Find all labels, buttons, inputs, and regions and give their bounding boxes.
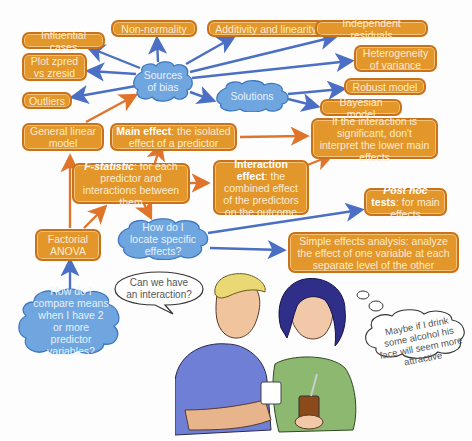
box-independent-residuals-label: Independent residuals (321, 17, 422, 41)
box-interaction-effect: Interaction effect: the combined effect … (213, 160, 309, 215)
cloud-compare-means: How do I compare means when I have 2 or … (18, 288, 124, 354)
box-main-effect: Main effect: the isolated effect of a pr… (110, 123, 237, 151)
box-influential-cases: Influential cases (22, 32, 105, 49)
cartoon-couple-illustration (175, 270, 365, 441)
box-f-statistic-text: F-statistic: for each predictor and inte… (78, 160, 184, 208)
box-independent-residuals: Independent residuals (315, 20, 428, 37)
box-simple-effects-label: Simple effects analysis: analyze the eff… (294, 235, 453, 271)
box-simple-effects: Simple effects analysis: analyze the eff… (288, 232, 459, 273)
box-f-statistic: F-statistic: for each predictor and inte… (72, 163, 190, 204)
box-general-linear-model: General linear model (22, 123, 104, 151)
main-effect-term: Main effect (116, 125, 171, 137)
cloud-locate-effects-label: How do I locate specific effects? (128, 221, 198, 257)
box-if-interaction-significant: If the interaction is significant, don't… (311, 118, 438, 159)
box-factorial-anova-label: Factorial ANOVA (41, 233, 95, 257)
cloud-solutions: Solutions (214, 80, 290, 112)
post-hoc-tests-word: tests (371, 196, 396, 208)
post-hoc-definition: : for main effects (390, 196, 440, 220)
box-heterogeneity: Heterogeneity of variance (354, 45, 437, 72)
box-outliers: Outliers (22, 92, 72, 109)
concept-map: Influential cases Non-normality Additivi… (0, 0, 472, 441)
box-bayesian-model: Bayesian model (320, 99, 402, 116)
box-non-normality: Non-normality (111, 20, 197, 37)
cloud-sources-of-bias-label: Sources of bias (141, 69, 185, 93)
box-post-hoc-text: Post hoc tests: for main effects (370, 184, 441, 220)
box-outliers-label: Outliers (29, 95, 65, 107)
cloud-solutions-label: Solutions (230, 90, 273, 102)
cloud-compare-means-label: How do I compare means when I have 2 or … (33, 285, 109, 357)
box-if-interaction-label: If the interaction is significant, don't… (317, 115, 432, 163)
box-robust-model-label: Robust model (353, 81, 418, 93)
box-general-linear-model-label: General linear model (28, 125, 98, 149)
box-post-hoc-tests: Post hoc tests: for main effects (364, 188, 447, 216)
post-hoc-term: Post hoc (383, 184, 427, 196)
cloud-locate-specific-effects: How do I locate specific effects? (115, 218, 211, 260)
f-statistic-term: F-statistic (84, 160, 134, 172)
thought-bubble-woman: Maybe if I drink some alcohol his face w… (352, 290, 472, 360)
box-robust-model: Robust model (344, 78, 426, 95)
box-influential-cases-label: Influential cases (28, 29, 99, 53)
box-non-normality-label: Non-normality (121, 23, 186, 35)
box-plot-zpred: Plot zpred vs zresid (22, 53, 87, 81)
box-heterogeneity-label: Heterogeneity of variance (360, 47, 431, 71)
box-main-effect-text: Main effect: the isolated effect of a pr… (116, 125, 231, 149)
box-factorial-anova: Factorial ANOVA (35, 229, 101, 261)
box-additivity-linearity: Additivity and linearity (207, 20, 325, 37)
box-plot-zpred-label: Plot zpred vs zresid (28, 55, 81, 79)
box-additivity-label: Additivity and linearity (215, 23, 317, 35)
box-interaction-effect-text: Interaction effect: the combined effect … (219, 158, 303, 218)
cloud-sources-of-bias: Sources of bias (132, 60, 194, 102)
